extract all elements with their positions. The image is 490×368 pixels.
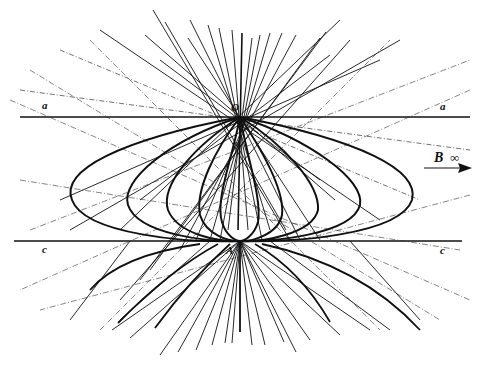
label-infinity: ∞: [450, 151, 459, 164]
arrow-B-infinity: [424, 163, 472, 173]
pencil-lines-A: [70, 241, 420, 355]
pencil-lines-O: [20, 10, 470, 300]
label-point-B: B: [434, 151, 443, 165]
label-point-O: O: [231, 102, 239, 113]
label-a-right: a: [440, 101, 446, 112]
label-a-left: a: [42, 100, 48, 111]
label-point-A: A: [226, 245, 233, 256]
label-c-left: c: [42, 244, 47, 255]
diagram-canvas: [0, 0, 490, 368]
label-c-right: c: [440, 245, 445, 256]
